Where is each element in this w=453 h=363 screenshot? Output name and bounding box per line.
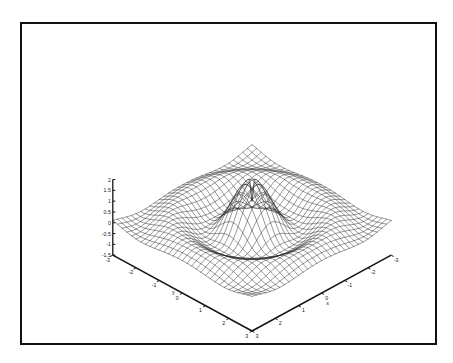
x-tick-mark	[252, 331, 254, 332]
x-tick-mark	[322, 293, 324, 294]
z-tick-label: -0.5	[102, 231, 111, 237]
z-tick-label: 1.5	[104, 187, 111, 193]
y-tick-label: -1	[152, 282, 157, 288]
y-tick-mark	[180, 293, 182, 294]
mesh-line	[233, 215, 372, 291]
figure-border: 3210-1-2-3-3-2-1012321.510.50-0.5-1-1.5x…	[20, 22, 437, 345]
x-tick-label: -2	[371, 269, 376, 275]
mesh-line	[238, 156, 377, 232]
y-tick-mark	[250, 331, 252, 332]
x-tick-label: 3	[256, 333, 259, 339]
x-tick-label: 1	[302, 307, 305, 313]
mesh-line	[173, 190, 312, 266]
z-tick-label: -1.5	[102, 252, 111, 258]
mesh-line	[113, 221, 252, 297]
surface-mesh	[113, 145, 391, 297]
x-tick-mark	[275, 318, 277, 319]
mesh-line	[131, 215, 270, 291]
z-tick-label: 0.5	[104, 209, 111, 215]
x-axis-label: x	[326, 300, 329, 306]
y-tick-mark	[226, 318, 228, 319]
page-root: 3210-1-2-3-3-2-1012321.510.50-0.5-1-1.5x…	[0, 0, 453, 363]
z-tick-label: 0	[108, 220, 111, 226]
y-axis-label: y	[172, 289, 175, 295]
y-tick-mark	[157, 280, 159, 281]
mesh-line	[192, 190, 331, 266]
mesh-line	[252, 221, 391, 297]
mesh-line	[127, 217, 266, 293]
x-tick-label: 2	[279, 320, 282, 326]
z-tick-label: 2	[108, 177, 111, 183]
mesh-line	[238, 217, 377, 293]
y-tick-mark	[203, 306, 205, 307]
mesh-line	[182, 179, 321, 261]
mesh-line	[187, 179, 326, 258]
surface-plot-svg: 3210-1-2-3-3-2-1012321.510.50-0.5-1-1.5x…	[44, 48, 453, 363]
mesh-line	[224, 211, 363, 287]
y-tick-label: 3	[245, 333, 248, 339]
mesh-line	[127, 156, 266, 232]
mesh-line	[178, 179, 317, 258]
surface-plot-canvas: 3210-1-2-3-3-2-1012321.510.50-0.5-1-1.5x…	[44, 48, 453, 363]
y-tick-label: 1	[199, 307, 202, 313]
mesh-line	[182, 179, 321, 261]
y-tick-mark	[134, 268, 136, 269]
axes-group	[110, 180, 393, 333]
mesh-line	[141, 211, 280, 287]
x-tick-mark	[298, 306, 300, 307]
y-tick-label: -2	[128, 269, 133, 275]
z-tick-label: -1	[106, 241, 111, 247]
y-tick-label: 0	[176, 295, 179, 301]
z-tick-label: 1	[108, 198, 111, 204]
x-tick-label: -1	[347, 282, 352, 288]
y-tick-label: 2	[222, 320, 225, 326]
x-tick-label: -3	[394, 257, 399, 263]
